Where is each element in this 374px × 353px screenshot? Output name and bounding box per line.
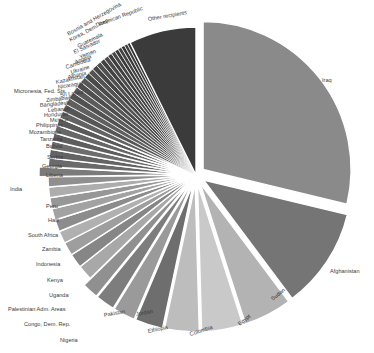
pie-chart-canvas <box>0 0 374 353</box>
pie-slice-group <box>39 21 351 332</box>
pie-slice[interactable] <box>203 21 351 204</box>
pie-chart-figure: IraqAfghanistanSudanEgyptColombiaEthiopi… <box>0 0 374 353</box>
